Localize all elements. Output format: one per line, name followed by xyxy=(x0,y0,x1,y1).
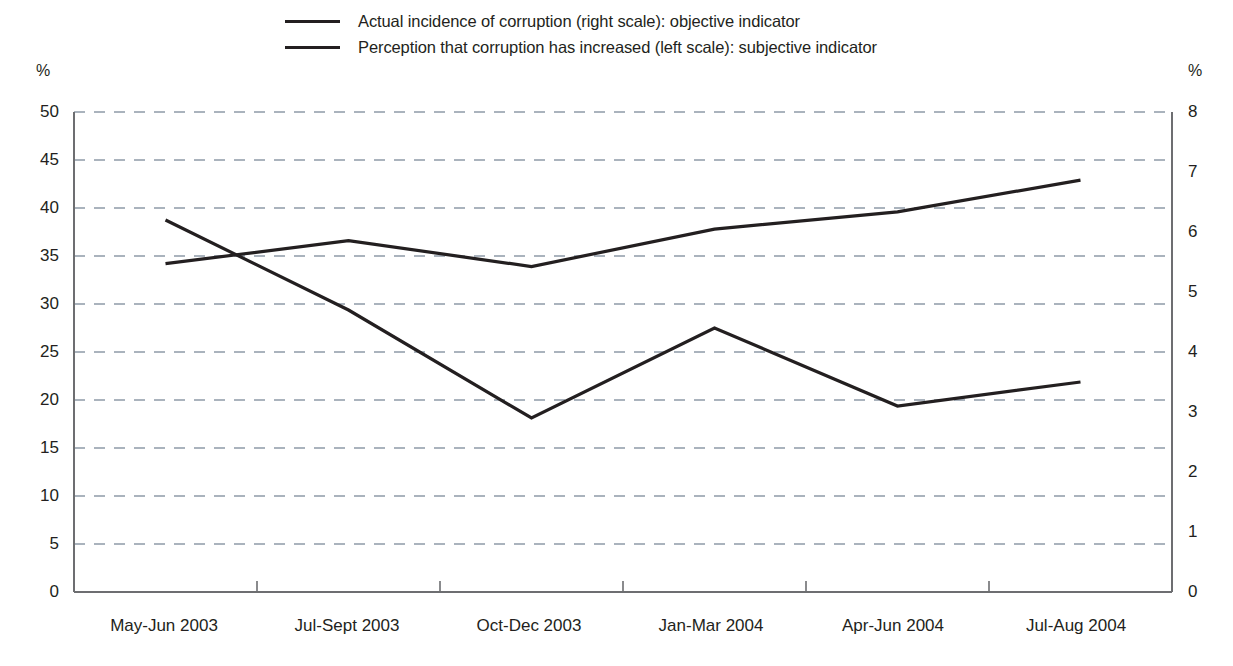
series-line-objective xyxy=(166,220,1081,418)
series-line-subjective xyxy=(166,180,1081,266)
data-series-layer xyxy=(166,180,1081,418)
gridlines xyxy=(74,112,1172,544)
chart-container: Actual incidence of corruption (right sc… xyxy=(0,0,1233,666)
plot-area xyxy=(0,0,1233,666)
x-axis-ticks xyxy=(257,581,989,592)
